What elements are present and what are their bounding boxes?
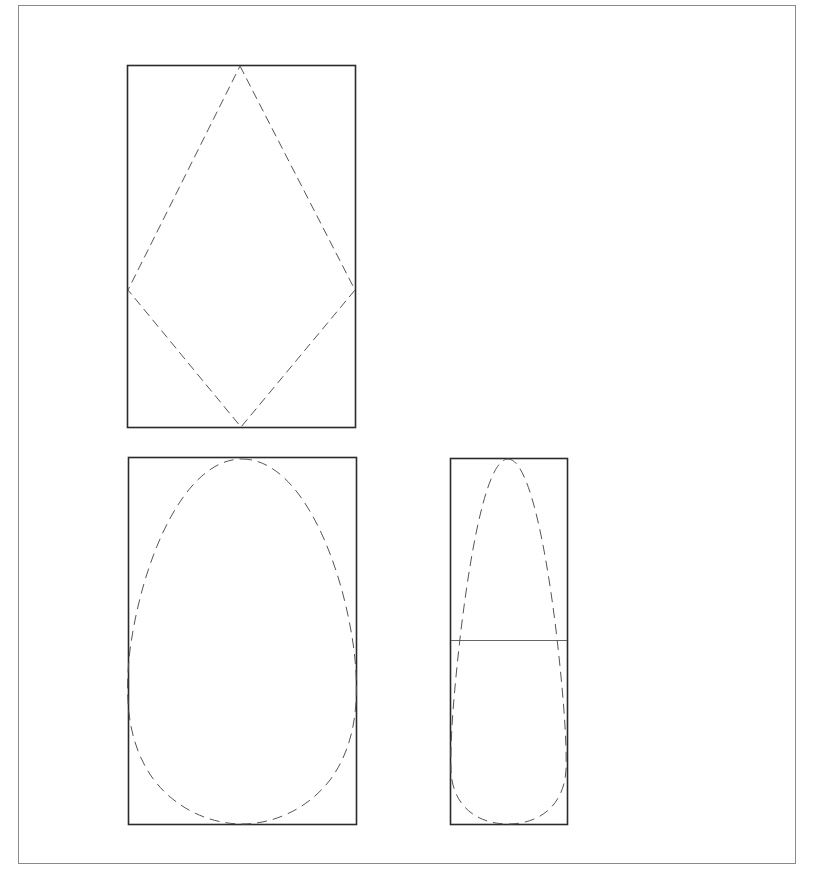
diagram-canvas — [0, 0, 815, 874]
narrow-egg-bounding-rect — [451, 459, 568, 825]
wide-egg-bounding-rect — [129, 458, 357, 825]
dashed-narrow-egg — [451, 459, 566, 824]
outer-frame — [19, 6, 796, 864]
narrow-egg-figure — [451, 459, 568, 825]
rhombus-figure — [128, 66, 356, 428]
dashed-wide-egg — [128, 459, 357, 824]
wide-egg-figure — [128, 458, 357, 825]
dashed-rhombus — [128, 66, 355, 427]
rhombus-bounding-rect — [128, 66, 356, 428]
